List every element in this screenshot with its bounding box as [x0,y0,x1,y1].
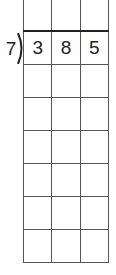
work-cell[interactable] [23,197,51,229]
work-cell[interactable] [23,65,51,97]
quotient-cell[interactable] [80,0,109,30]
dividend-row: 3 8 5 [23,32,109,65]
work-cell[interactable] [51,65,79,97]
work-cell[interactable] [80,98,109,130]
work-cell[interactable] [51,230,79,262]
work-cell[interactable] [80,197,109,229]
work-cell[interactable] [80,131,109,163]
work-cell[interactable] [23,131,51,163]
work-cell[interactable] [51,98,79,130]
dividend-digit: 3 [23,32,51,64]
work-row [23,164,109,197]
dividend-digit: 8 [51,32,79,64]
work-cell[interactable] [51,197,79,229]
work-cell[interactable] [23,98,51,130]
quotient-cell[interactable] [51,0,79,30]
dividend-digit: 5 [80,32,109,64]
work-row [23,65,109,98]
long-division-grid: 3 8 5 [23,0,109,263]
work-cell[interactable] [51,164,79,196]
quotient-cell[interactable] [23,0,51,30]
work-cell[interactable] [23,230,51,262]
work-row [23,98,109,131]
work-row [23,131,109,164]
work-cell[interactable] [80,230,109,262]
divisor: 7 [4,33,18,65]
work-cell[interactable] [23,164,51,196]
work-cell[interactable] [51,131,79,163]
work-row [23,197,109,230]
work-cell[interactable] [80,164,109,196]
work-cell[interactable] [80,65,109,97]
quotient-row [23,0,109,32]
work-row [23,230,109,263]
